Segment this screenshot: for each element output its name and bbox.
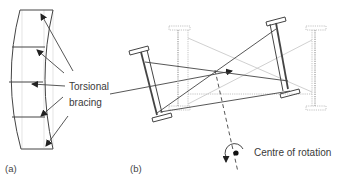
rotated-left-girder [129, 46, 172, 122]
centre-of-rotation-label: Centre of rotation [254, 147, 331, 158]
rotation-arrow-icon [225, 144, 243, 162]
centre-of-rotation-dot [233, 150, 238, 155]
torsional-bracing-leaders [32, 14, 232, 146]
panel-a-girder-plan [9, 10, 53, 149]
torsional-label-line1: Torsional [69, 81, 109, 92]
torsional-bracing-diagram: Torsional bracing (a) [0, 0, 337, 185]
caption-b: (b) [130, 163, 142, 174]
rotated-bracing [145, 29, 290, 113]
torsional-label-line2: bracing [69, 97, 102, 108]
rotated-right-girder [266, 17, 300, 98]
caption-a: (a) [5, 163, 17, 174]
rotation-axis-line [215, 70, 238, 172]
